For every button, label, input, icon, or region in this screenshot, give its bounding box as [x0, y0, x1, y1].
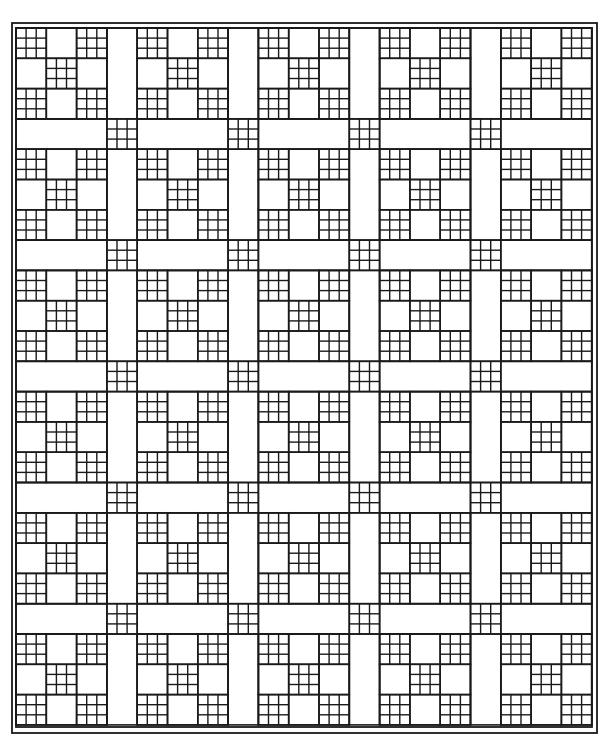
sashing-strip [16, 240, 107, 270]
nine-patch [137, 452, 167, 482]
quilt-block [16, 513, 107, 604]
quilt-block [258, 392, 349, 483]
nine-patch [198, 28, 228, 58]
quilt-block [137, 634, 228, 725]
plain-square [410, 695, 440, 725]
nine-patch [471, 240, 501, 270]
nine-patch [380, 210, 410, 240]
sashing-strip [471, 634, 501, 725]
plain-square [319, 543, 349, 573]
plain-square [198, 664, 228, 694]
nine-patch [16, 392, 46, 422]
nine-patch [561, 695, 591, 725]
plain-square [168, 270, 198, 300]
plain-square [289, 695, 319, 725]
sashing-strip [258, 119, 349, 149]
plain-square [380, 180, 410, 210]
plain-square [410, 28, 440, 58]
plain-square [531, 573, 561, 603]
plain-square [258, 301, 288, 331]
nine-patch [16, 89, 46, 119]
nine-patch [228, 483, 258, 513]
nine-patch [137, 695, 167, 725]
plain-square [137, 301, 167, 331]
nine-patch [198, 452, 228, 482]
sashing-strip [228, 634, 258, 725]
nine-patch [16, 573, 46, 603]
nine-patch [440, 331, 470, 361]
sashing-strip [16, 483, 107, 513]
sashing-strip [137, 483, 228, 513]
plain-square [289, 270, 319, 300]
nine-patch [137, 149, 167, 179]
plain-square [410, 392, 440, 422]
nine-patch [440, 392, 470, 422]
nine-patch [410, 543, 440, 573]
sashing-strip [380, 119, 471, 149]
plain-square [137, 180, 167, 210]
nine-patch [198, 695, 228, 725]
nine-patch [380, 28, 410, 58]
plain-square [46, 634, 76, 664]
plain-square [289, 573, 319, 603]
plain-square [561, 664, 591, 694]
nine-patch [107, 483, 137, 513]
nine-patch [501, 513, 531, 543]
plain-square [46, 210, 76, 240]
nine-patch [198, 573, 228, 603]
nine-patch [258, 634, 288, 664]
plain-square [77, 301, 107, 331]
plain-square [16, 664, 46, 694]
nine-patch [440, 28, 470, 58]
nine-patch [77, 89, 107, 119]
plain-square [380, 543, 410, 573]
nine-patch [258, 695, 288, 725]
plain-square [46, 331, 76, 361]
nine-patch [349, 604, 379, 634]
sashing-strip [228, 270, 258, 361]
plain-square [561, 543, 591, 573]
sashing-strip [107, 270, 137, 361]
quilt-block [501, 634, 592, 725]
plain-square [319, 422, 349, 452]
nine-patch [561, 89, 591, 119]
nine-patch [77, 331, 107, 361]
plain-square [501, 301, 531, 331]
quilt-block [380, 634, 471, 725]
sashing-strip [258, 240, 349, 270]
nine-patch [46, 664, 76, 694]
quilt-block [380, 513, 471, 604]
nine-patch [319, 28, 349, 58]
nine-patch [501, 392, 531, 422]
nine-patch [137, 210, 167, 240]
nine-patch [319, 149, 349, 179]
plain-square [46, 270, 76, 300]
nine-patch [501, 634, 531, 664]
plain-square [440, 664, 470, 694]
nine-patch [289, 58, 319, 88]
nine-patch [198, 149, 228, 179]
nine-patch [168, 422, 198, 452]
sashing-strip [501, 483, 592, 513]
nine-patch [531, 543, 561, 573]
nine-patch [289, 664, 319, 694]
nine-patch [137, 270, 167, 300]
sashing-strip [107, 149, 137, 240]
quilt-block [16, 270, 107, 361]
sashing-strip [501, 361, 592, 391]
nine-patch [319, 392, 349, 422]
nine-patch [228, 240, 258, 270]
plain-square [380, 301, 410, 331]
nine-patch [561, 210, 591, 240]
plain-square [289, 210, 319, 240]
nine-patch [77, 392, 107, 422]
quilt-block [258, 634, 349, 725]
nine-patch [77, 695, 107, 725]
nine-patch [440, 210, 470, 240]
sashing-strip [258, 604, 349, 634]
sashing-strip [471, 513, 501, 604]
plain-square [168, 210, 198, 240]
nine-patch [198, 210, 228, 240]
nine-patch [410, 301, 440, 331]
nine-patch [258, 149, 288, 179]
